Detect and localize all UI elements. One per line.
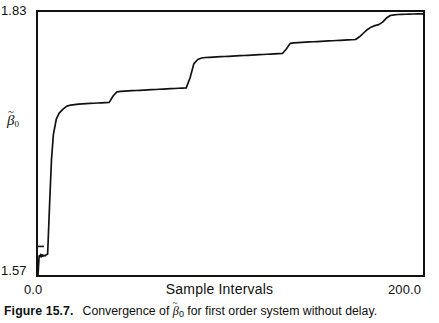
figure-caption: Figure 15.7.Convergence of ~β0 for first… <box>4 304 439 319</box>
beta-symbol: ~ β <box>7 112 14 129</box>
beta-subscript: 0 <box>14 119 19 129</box>
caption-tilde-accent-icon: ~ <box>173 298 178 308</box>
figure-container: 1.83 1.57 ~ β 0 0.0 200.0 Sample Interva… <box>0 0 439 323</box>
convergence-curve <box>38 14 423 275</box>
x-axis-title: Sample Intervals <box>0 281 439 297</box>
tilde-accent-icon: ~ <box>8 105 14 117</box>
caption-beta-symbol: ~β <box>173 304 179 318</box>
y-axis-max-label: 1.83 <box>1 4 27 17</box>
figure-number: Figure 15.7. <box>4 304 74 318</box>
plot-frame <box>36 10 425 277</box>
plot-canvas <box>38 12 423 275</box>
caption-text-after: for first order system without delay. <box>184 304 377 318</box>
y-axis-min-label: 1.57 <box>1 264 27 277</box>
caption-text-before: Convergence of <box>83 304 173 318</box>
y-axis-title: ~ β 0 <box>7 112 19 129</box>
